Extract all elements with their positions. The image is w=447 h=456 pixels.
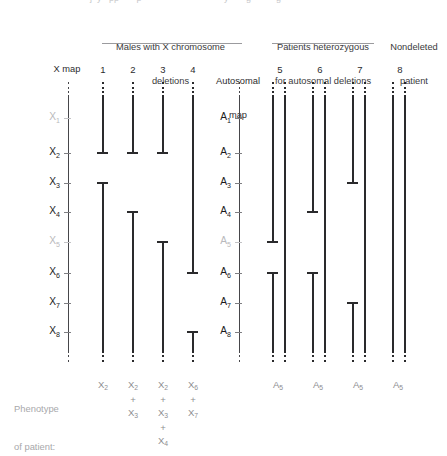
- patient-2-bottom-dots: [132, 355, 134, 364]
- x-locus-label-3: X3: [34, 176, 60, 187]
- phenotype-plus: +: [179, 393, 207, 407]
- x-locus-label-2: X2: [34, 146, 60, 157]
- a-locus-tick-4: [235, 212, 242, 213]
- phenotype-term: X6: [179, 378, 207, 393]
- a-locus-label-1: A1: [205, 111, 231, 122]
- a-locus-label-8: A8: [205, 325, 231, 336]
- patient-7-intact-bottom-dots: [364, 355, 366, 364]
- x-map-axis: [68, 95, 69, 353]
- patient-2-chromatid-lower: [132, 212, 134, 353]
- patient-2-top-dots: [132, 82, 134, 96]
- patient-1-chromatid-lower: [102, 183, 104, 353]
- group-header-het-line2: for autosomal deletions: [262, 76, 384, 87]
- phenotype-plus: +: [149, 393, 177, 407]
- patient-5-chromatid-deleted-upper: [272, 95, 274, 242]
- autosomal-map-axis: [239, 95, 240, 353]
- a-locus-label-5: A5: [205, 235, 231, 246]
- autosomal-map-label: Autosomal map: [209, 53, 267, 144]
- x-locus-tick-2: [64, 153, 71, 154]
- patient-5-chromatid-deleted-lower: [272, 273, 274, 353]
- phenotype-row-label: Phenotype of patient:: [14, 378, 59, 456]
- x-locus-label-1: X1: [34, 111, 60, 122]
- patient-4-breakpoint-cap-upper: [187, 272, 198, 274]
- phenotype-patient-7: A5: [344, 378, 372, 393]
- patient-5-intact-bottom-dots: [284, 355, 286, 364]
- clipped-caption-row: j y pp p y g g: [0, 0, 447, 8]
- a-locus-label-6: A6: [205, 266, 231, 277]
- a-locus-tick-6: [235, 273, 242, 274]
- patient-6-chromatid-deleted-lower: [312, 273, 314, 353]
- phenotype-label-line2: of patient:: [14, 441, 59, 454]
- autosomal-map-axis-bottom-dashes: [239, 355, 240, 364]
- column-number-4: 4: [185, 64, 201, 75]
- patient-7-breakpoint-cap-upper: [347, 182, 358, 184]
- patient-4-top-dots: [192, 82, 194, 96]
- patient-8-right-top-dots: [404, 82, 406, 96]
- x-locus-tick-5: [64, 242, 71, 243]
- patient-5-breakpoint-cap-upper: [267, 241, 278, 243]
- patient-7-deleted-top-dots: [352, 82, 354, 96]
- patient-8-chromatid-left: [392, 95, 394, 353]
- phenotype-label-line1: Phenotype: [14, 403, 59, 416]
- phenotype-term: X2: [89, 378, 117, 393]
- phenotype-patient-8: A5: [384, 378, 412, 393]
- autosomal-map-label-line1: Autosomal: [209, 76, 267, 87]
- patient-8-chromatid-right: [404, 95, 406, 353]
- patient-7-chromatid-deleted-lower: [352, 303, 354, 353]
- phenotype-patient-2: X2 + X3: [119, 378, 147, 421]
- phenotype-term: X4: [149, 434, 177, 449]
- a-locus-label-7: A7: [205, 296, 231, 307]
- x-locus-label-4: X4: [34, 205, 60, 216]
- patient-4-chromatid-upper: [192, 95, 194, 273]
- a-locus-tick-5: [235, 242, 242, 243]
- x-map-axis-bottom-dashes: [68, 355, 69, 364]
- patient-7-deleted-bottom-dots: [352, 355, 354, 364]
- patient-3-chromatid-lower: [162, 242, 164, 353]
- x-locus-label-5: X5: [34, 235, 60, 246]
- phenotype-term: X3: [149, 406, 177, 421]
- phenotype-patient-1: X2: [89, 378, 117, 393]
- a-locus-tick-8: [235, 332, 242, 333]
- phenotype-plus: +: [119, 393, 147, 407]
- column-number-1: 1: [95, 64, 111, 75]
- patient-3-bottom-dots: [162, 355, 164, 364]
- phenotype-patient-5: A5: [264, 378, 292, 393]
- patient-5-chromatid-intact: [284, 95, 286, 353]
- phenotype-term: X2: [149, 378, 177, 393]
- phenotype-term: A5: [384, 378, 412, 393]
- patient-1-bottom-dots: [102, 355, 104, 364]
- patient-7-chromatid-intact: [364, 95, 366, 353]
- x-locus-label-6: X6: [34, 266, 60, 277]
- a-locus-tick-2: [235, 153, 242, 154]
- patient-6-chromatid-deleted-upper: [312, 95, 314, 212]
- x-map-label: X map: [46, 64, 88, 75]
- phenotype-patient-4: X6 + X7: [179, 378, 207, 421]
- phenotype-term: A5: [344, 378, 372, 393]
- a-locus-tick-3: [235, 183, 242, 184]
- patient-5-deleted-top-dots: [272, 82, 274, 96]
- patient-4-bottom-dots: [192, 355, 194, 364]
- patient-7-chromatid-deleted-upper: [352, 95, 354, 183]
- column-number-6: 6: [312, 64, 328, 75]
- x-locus-tick-1: [64, 118, 71, 119]
- phenotype-term: X2: [119, 378, 147, 393]
- patient-1-top-dots: [102, 82, 104, 96]
- column-number-5: 5: [272, 64, 288, 75]
- phenotype-patient-3: X2 + X3 + X4: [149, 378, 177, 449]
- phenotype-plus: +: [149, 421, 177, 435]
- patient-6-chromatid-intact: [324, 95, 326, 353]
- patient-5-deleted-bottom-dots: [272, 355, 274, 364]
- patient-6-breakpoint-cap-upper: [307, 211, 318, 213]
- autosomal-map-axis-top-dashes: [239, 82, 240, 96]
- patient-4-chromatid-lower: [192, 332, 194, 353]
- patient-6-intact-bottom-dots: [324, 355, 326, 364]
- column-number-7: 7: [352, 64, 368, 75]
- group-rule-males: [102, 43, 242, 44]
- patient-8-left-top-dots: [392, 82, 394, 96]
- patient-5-intact-top-dots: [284, 82, 286, 96]
- phenotype-term: A5: [304, 378, 332, 393]
- patient-6-deleted-top-dots: [312, 82, 314, 96]
- group-rule-heterozygous: [272, 43, 374, 44]
- column-number-2: 2: [125, 64, 141, 75]
- a-locus-tick-1: [235, 118, 242, 119]
